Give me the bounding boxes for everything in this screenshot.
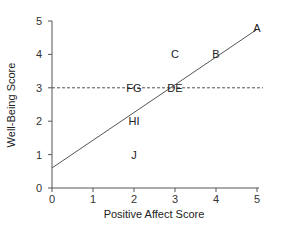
point-label-fg: FG xyxy=(126,82,141,94)
y-tick-label: 3 xyxy=(36,82,42,94)
scatter-chart: 012345012345 ABCDEFGHIJ Positive Affect … xyxy=(0,0,283,238)
y-tick-label: 5 xyxy=(36,15,42,27)
x-tick-label: 3 xyxy=(172,193,178,205)
axes: 012345012345 xyxy=(36,15,260,205)
point-label-c: C xyxy=(171,48,179,60)
y-axis-title: Well-Being Score xyxy=(5,63,17,148)
y-tick-label: 2 xyxy=(36,115,42,127)
fit-line xyxy=(52,29,257,168)
x-tick-label: 2 xyxy=(131,193,137,205)
regression-line xyxy=(52,29,257,168)
point-label-j: J xyxy=(131,149,137,161)
x-axis-title: Positive Affect Score xyxy=(104,208,205,220)
y-tick-label: 0 xyxy=(36,182,42,194)
y-tick-label: 4 xyxy=(36,48,42,60)
point-label-de: DE xyxy=(167,82,182,94)
x-tick-label: 0 xyxy=(49,193,55,205)
data-points: ABCDEFGHIJ xyxy=(126,22,261,161)
x-tick-label: 4 xyxy=(213,193,219,205)
x-tick-label: 1 xyxy=(90,193,96,205)
point-label-a: A xyxy=(253,22,261,34)
y-tick-label: 1 xyxy=(36,149,42,161)
x-tick-label: 5 xyxy=(254,193,260,205)
point-label-hi: HI xyxy=(129,115,140,127)
point-label-b: B xyxy=(212,48,219,60)
